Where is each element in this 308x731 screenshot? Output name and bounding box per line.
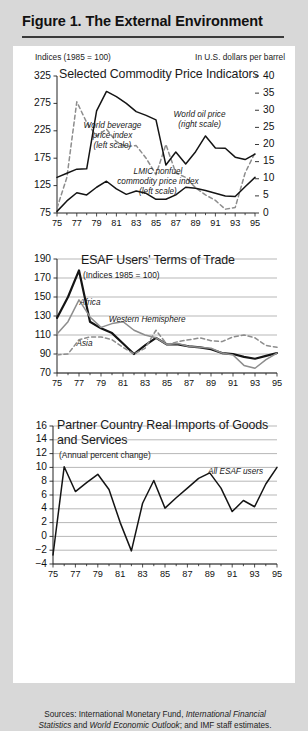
x-tick-label: 87: [177, 378, 201, 388]
x-tick-label: 93: [243, 378, 267, 388]
x-tick-label: 75: [41, 569, 65, 579]
y-tick-label: 170: [11, 272, 51, 283]
y-tick-label: 70: [11, 367, 51, 378]
chart-commodity-price-indicators: Indices (1985 = 100) In U.S. dollars per…: [13, 46, 295, 236]
x-tick-label: 83: [131, 569, 155, 579]
y-tick-label: 4: [7, 502, 47, 513]
y-tick-label: 75: [11, 207, 51, 218]
series-annotation: Africa: [45, 298, 135, 308]
series-western-hemisphere: [57, 300, 277, 368]
x-tick-label: 95: [265, 569, 289, 579]
chart1-left-caption: Indices (1985 = 100): [35, 52, 111, 62]
y-tick-label: 10: [7, 461, 47, 472]
y-tick-label: 16: [7, 420, 47, 431]
y2-tick-label: 30: [263, 104, 274, 115]
x-tick-label: 77: [67, 378, 91, 388]
series-annotation: World beverageprice index(left scale): [67, 121, 157, 151]
y-tick-label: 14: [7, 433, 47, 444]
sources-mid: and: [71, 721, 89, 730]
x-tick-label: 81: [108, 569, 132, 579]
y2-tick-label: 40: [263, 70, 274, 81]
x-tick-label: 93: [243, 569, 267, 579]
y2-tick-label: 10: [263, 172, 274, 183]
title-divider: [22, 36, 284, 38]
x-tick-label: 77: [63, 569, 87, 579]
series-annotation: All ESAF users: [191, 467, 281, 477]
y-tick-label: 225: [11, 124, 51, 135]
x-tick-label: 81: [111, 378, 135, 388]
x-tick-label: 91: [221, 378, 245, 388]
y2-tick-label: 15: [263, 155, 274, 166]
chart2-subtitle: (Indices 1985 = 100): [83, 270, 160, 280]
y-tick-label: 130: [11, 310, 51, 321]
x-tick-label: 89: [199, 378, 223, 388]
x-tick-label: 85: [155, 378, 179, 388]
x-tick-label: 89: [198, 569, 222, 579]
sources-suffix: ; and IMF staff estimates.: [180, 721, 272, 730]
chart-partner-country-real-imports: Partner Country Real Imports of Goods an…: [13, 416, 295, 601]
x-tick-label: 91: [220, 569, 244, 579]
chart1-title: Selected Commodity Price Indicators: [59, 67, 259, 81]
y-tick-label: −2: [7, 544, 47, 555]
x-tick-label: 85: [153, 569, 177, 579]
y-tick-label: 6: [7, 489, 47, 500]
series-all-esaf-users: [53, 467, 277, 555]
y-tick-label: 190: [11, 253, 51, 264]
series-annotation: Asia: [40, 339, 130, 349]
chart3-title: Partner Country Real Imports of Goods an…: [57, 418, 282, 448]
y-tick-label: 2: [7, 516, 47, 527]
charts-panel: Indices (1985 = 100) In U.S. dollars per…: [13, 46, 295, 683]
y2-tick-label: 25: [263, 121, 274, 132]
sources-italic-weo: World Economic Outlook: [90, 721, 180, 730]
series-annotation: World oil price(right scale): [155, 110, 245, 130]
y-tick-label: 90: [11, 348, 51, 359]
x-tick-label: 95: [265, 378, 289, 388]
y-tick-label: 275: [11, 97, 51, 108]
y-tick-label: 125: [11, 179, 51, 190]
y2-tick-label: 5: [263, 189, 269, 200]
y2-tick-label: 20: [263, 138, 274, 149]
sources-note: Sources: International Monetary Fund, In…: [33, 709, 277, 731]
sources-prefix: Sources: International Monetary Fund,: [44, 710, 186, 719]
x-tick-label: 79: [89, 378, 113, 388]
chart-esaf-terms-of-trade: ESAF Users' Terms of Trade (Indices 1985…: [13, 251, 295, 401]
x-tick-label: 83: [133, 378, 157, 388]
series-annotation: LMIC nonfuelcommodity price index(left s…: [113, 167, 203, 197]
x-tick-label: 75: [45, 378, 69, 388]
y-tick-label: 0: [7, 530, 47, 541]
series-annotation: Western Hemisphere: [102, 315, 192, 325]
y2-tick-label: 35: [263, 87, 274, 98]
y-tick-label: 8: [7, 475, 47, 486]
y-tick-label: −4: [7, 558, 47, 569]
page-title: Figure 1. The External Environment: [22, 13, 263, 29]
chart2-title: ESAF Users' Terms of Trade: [81, 253, 235, 267]
x-tick-label: 87: [175, 569, 199, 579]
y-tick-label: 325: [11, 70, 51, 81]
chart1-right-caption: In U.S. dollars per barrel: [195, 52, 285, 62]
y2-tick-label: 0: [263, 207, 269, 218]
y-tick-label: 175: [11, 152, 51, 163]
x-tick-label: 95: [243, 218, 267, 228]
x-tick-label: 79: [86, 569, 110, 579]
chart3-subtitle: (Annual percent change): [59, 450, 151, 460]
y-tick-label: 12: [7, 447, 47, 458]
